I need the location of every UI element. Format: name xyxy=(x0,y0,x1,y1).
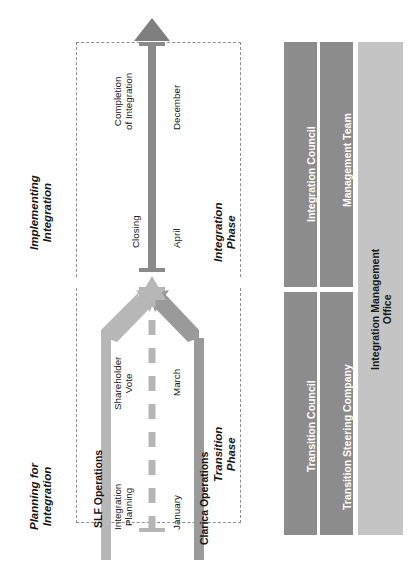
box-label-line2: Phase xyxy=(225,203,238,262)
box-label-line2: Phase xyxy=(225,427,238,482)
phase-label-implementing-integration: Implementing Integration xyxy=(28,175,54,250)
governance-label-line2: Office xyxy=(382,249,394,370)
milestone-line2: Planning xyxy=(124,484,135,530)
box-label-transition-phase: Transition Phase xyxy=(212,427,238,482)
milestone-label-shareholder-vote: Shareholder Vote xyxy=(113,357,135,410)
phase-label-line1: Planning for xyxy=(28,463,41,530)
milestone-line2: Vote xyxy=(124,357,135,410)
milestone-label-integration-planning: Integration Planning xyxy=(113,484,135,530)
milestone-month-april: April xyxy=(172,228,183,248)
box-label-integration-phase: Integration Phase xyxy=(212,203,238,262)
milestone-line2: of Integration xyxy=(124,73,135,130)
phase-label-planning-for-integration: Planning for Integration xyxy=(28,463,54,530)
phase-label-line2: Integration xyxy=(41,463,54,530)
box-label-line1: Transition xyxy=(212,427,225,482)
stream-label-clarica-operations: Clarica Operations xyxy=(199,452,211,545)
governance-label-integration-management-office: Integration Management Office xyxy=(370,249,394,370)
phase-label-line1: Implementing xyxy=(28,175,41,250)
milestone-month-december: December xyxy=(172,85,183,130)
phase-label-line2: Integration xyxy=(41,175,54,250)
governance-label-integration-council: Integration Council xyxy=(306,126,318,222)
milestone-label-completion-of-integration: Completion of Integration xyxy=(113,73,135,130)
governance-label-management-team: Management Team xyxy=(342,113,354,207)
milestone-month-march: March xyxy=(172,369,183,396)
governance-label-line1: Integration Management xyxy=(370,249,382,370)
governance-label-transition-council: Transition Council xyxy=(306,380,318,472)
box-label-line1: Integration xyxy=(212,203,225,262)
diagram-canvas: Implementing Integration Planning for In… xyxy=(0,0,414,575)
milestone-label-closing: Closing xyxy=(131,215,142,248)
dashed-center-connector xyxy=(139,287,165,532)
milestone-month-january: January xyxy=(172,495,183,530)
stream-label-slf-operations: SLF Operations xyxy=(93,450,105,528)
governance-label-transition-steering-company: Transition Steering Company xyxy=(342,364,354,510)
